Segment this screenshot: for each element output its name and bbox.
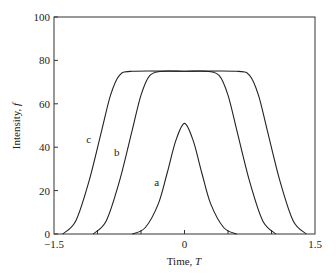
curve-label-a: a	[154, 176, 159, 188]
x-axis-label: Time, T	[167, 255, 202, 267]
curve-label-b: b	[114, 146, 120, 158]
curves	[63, 71, 307, 234]
x-axis-ticks: −1.501.5	[44, 230, 322, 250]
plot-frame	[54, 17, 315, 234]
y-axis-label: Intensity, f	[10, 101, 22, 149]
y-tick-label: 100	[34, 11, 51, 23]
y-tick-label: 20	[39, 185, 51, 197]
y-tick-label: 80	[39, 54, 51, 66]
x-tick-label: 1.5	[308, 238, 322, 250]
x-tick-label: −1.5	[44, 238, 64, 250]
y-tick-label: 40	[39, 141, 51, 153]
curve-c	[63, 71, 307, 234]
curve-a	[132, 123, 236, 234]
y-tick-label: 60	[39, 98, 51, 110]
chart: 020406080100 −1.501.5 abc Time, T Intens…	[0, 0, 336, 274]
curve-b	[93, 71, 276, 234]
curve-label-c: c	[86, 133, 91, 145]
x-tick-label: 0	[182, 238, 188, 250]
curve-labels: abc	[86, 133, 159, 188]
